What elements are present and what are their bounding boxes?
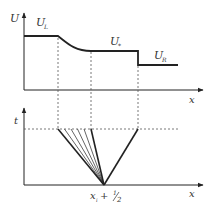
svg-text:2: 2 (116, 196, 122, 204)
top-x-axis-label: x (189, 94, 195, 105)
interface-label: x i + 1 2 (90, 189, 122, 204)
riemann-diagram: U x U L U * U R t x (0, 0, 213, 213)
top-plot: U x U L U * U R (10, 12, 203, 105)
left-state-label: U L (36, 16, 48, 30)
shock-ray (104, 129, 138, 185)
right-state-label: U R (154, 49, 167, 63)
bottom-x-axis-label: x (189, 188, 195, 199)
svg-text:R: R (161, 56, 167, 63)
svg-text:*: * (118, 42, 121, 49)
rarefaction-fan (58, 129, 104, 185)
bottom-y-axis-label: t (14, 115, 19, 126)
svg-text:+: + (100, 190, 108, 201)
top-y-axis-label: U (10, 12, 20, 25)
svg-text:1: 1 (113, 189, 117, 196)
fan-ray (71, 129, 104, 185)
fan-ray (84, 129, 104, 185)
bottom-plot: t x x i + 1 2 (14, 108, 203, 204)
star-state-label: U * (110, 35, 121, 49)
svg-text:L: L (43, 23, 48, 30)
svg-text:i: i (96, 197, 98, 203)
